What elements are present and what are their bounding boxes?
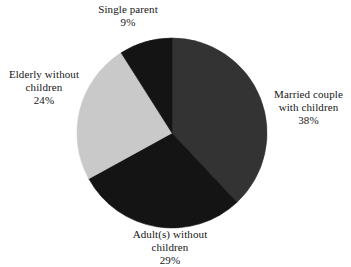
pie-chart-graphic bbox=[0, 0, 351, 267]
pie-label-elderly-name-line2: children bbox=[0, 81, 88, 94]
pie-label-elderly-without-children: Elderly without children 24% bbox=[0, 68, 88, 107]
pie-chart-figure: Single parent 9% Married couple with chi… bbox=[0, 0, 351, 267]
pie-label-married-couple-name-line2: with children bbox=[266, 101, 351, 114]
pie-slices-group bbox=[77, 38, 267, 228]
pie-label-single-parent-value: 9% bbox=[62, 16, 194, 29]
pie-label-adults-value: 29% bbox=[104, 254, 236, 267]
pie-label-adults-without-children: Adult(s) without children 29% bbox=[104, 228, 236, 267]
pie-label-single-parent: Single parent 9% bbox=[62, 3, 194, 29]
pie-label-adults-name-line2: children bbox=[104, 241, 236, 254]
pie-label-married-couple-value: 38% bbox=[266, 114, 351, 127]
pie-label-married-couple: Married couple with children 38% bbox=[266, 88, 351, 127]
pie-label-elderly-value: 24% bbox=[0, 94, 88, 107]
pie-label-adults-name-line1: Adult(s) without bbox=[104, 228, 236, 241]
pie-label-elderly-name-line1: Elderly without bbox=[0, 68, 88, 81]
pie-label-single-parent-name: Single parent bbox=[62, 3, 194, 16]
pie-label-married-couple-name-line1: Married couple bbox=[266, 88, 351, 101]
